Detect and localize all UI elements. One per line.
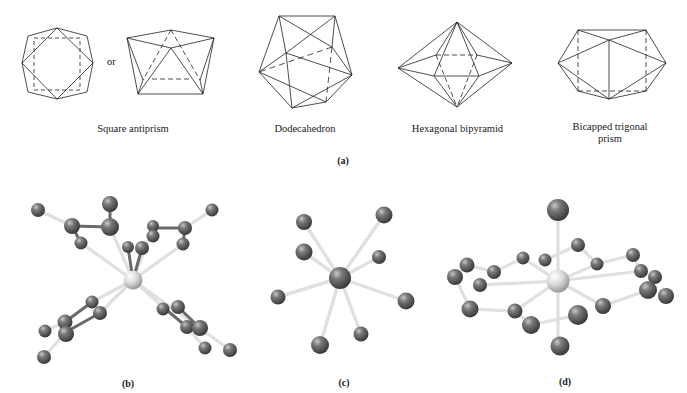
panel-label-a: (a) — [330, 155, 356, 166]
bicapped-trigonal-prism — [558, 30, 666, 99]
molecule-b — [31, 196, 237, 364]
label-line1: Hexagonal bipyramid — [400, 123, 515, 135]
label-line1: Bicapped trigonal — [555, 121, 665, 133]
molecule-c — [271, 207, 415, 355]
or-connector: or — [107, 56, 116, 67]
polyhedra-drawings — [0, 0, 687, 393]
label-hexagonal-bipyramid: Hexagonal bipyramid — [400, 123, 515, 135]
label-line2: prism — [555, 133, 665, 145]
panel-label-c: (c) — [331, 377, 357, 388]
molecule-d — [447, 199, 674, 356]
panel-label-d: (d) — [552, 376, 578, 387]
label-square-antiprism: Square antiprism — [78, 123, 188, 135]
hexagonal-bipyramid — [398, 22, 512, 107]
dodecahedron — [259, 16, 352, 108]
label-dodecahedron: Dodecahedron — [255, 123, 355, 135]
square-antiprism-topview — [22, 28, 93, 99]
panel-label-b: (b) — [115, 378, 141, 389]
label-line1: Square antiprism — [78, 123, 188, 135]
square-antiprism-sideview — [127, 30, 214, 94]
label-bicapped-trigonal-prism: Bicapped trigonal prism — [555, 121, 665, 145]
label-line1: Dodecahedron — [255, 123, 355, 135]
